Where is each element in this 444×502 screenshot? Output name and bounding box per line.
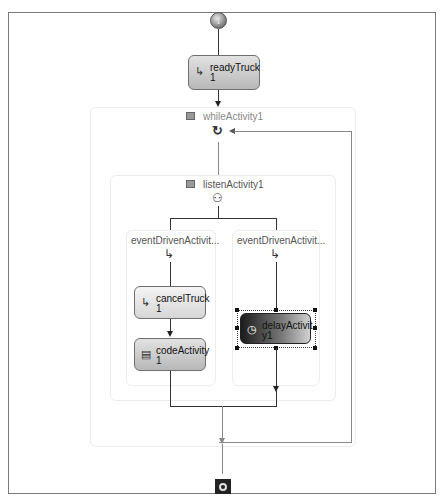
listen-icon: ⚇ bbox=[212, 192, 223, 204]
resize-handle[interactable] bbox=[235, 326, 239, 330]
branch-label: eventDrivenActivit... bbox=[237, 235, 325, 246]
branch-label: eventDrivenActivit... bbox=[131, 235, 219, 246]
workflow-end-icon[interactable] bbox=[215, 479, 231, 494]
loopback-connector bbox=[219, 442, 352, 443]
arrow-head bbox=[167, 331, 173, 337]
connector bbox=[222, 444, 223, 474]
while-activity-header: whileActivity1 bbox=[186, 111, 263, 122]
code-icon: ▤ bbox=[141, 349, 152, 360]
resize-handle[interactable] bbox=[235, 346, 239, 350]
connector bbox=[170, 406, 277, 407]
connector bbox=[170, 218, 277, 219]
collapse-toggle[interactable] bbox=[186, 112, 195, 120]
activity-label: delayActivity1 bbox=[262, 321, 313, 341]
resize-handle[interactable] bbox=[313, 346, 317, 350]
activity-codeactivity[interactable]: ▤ codeActivity1 bbox=[134, 338, 206, 371]
connector bbox=[218, 206, 219, 218]
resize-handle[interactable] bbox=[313, 308, 317, 312]
resize-handle[interactable] bbox=[274, 308, 278, 312]
event-sink-icon: ↳ bbox=[195, 66, 206, 77]
connector bbox=[170, 262, 171, 286]
collapse-toggle[interactable] bbox=[186, 180, 195, 188]
connector bbox=[276, 262, 277, 308]
while-activity-label: whileActivity1 bbox=[203, 111, 263, 122]
connector bbox=[222, 406, 223, 438]
connector bbox=[276, 390, 277, 406]
activity-readytruck[interactable]: ↳ readyTruck1 bbox=[188, 55, 260, 90]
end-ring bbox=[219, 483, 227, 491]
resize-handle[interactable] bbox=[235, 308, 239, 312]
activity-label: codeActivity1 bbox=[156, 346, 209, 366]
connector bbox=[276, 348, 277, 388]
event-driven-icon: ↳ bbox=[164, 248, 174, 260]
activity-canceltruck[interactable]: ↳ cancelTruck1 bbox=[134, 286, 206, 319]
delay-icon: ◷ bbox=[247, 324, 258, 335]
workflow-start-icon[interactable]: ↓ bbox=[210, 12, 227, 29]
loop-icon: ↻ bbox=[212, 125, 223, 137]
listen-activity-header: listenActivity1 bbox=[186, 179, 264, 190]
activity-delayactivity[interactable]: ◷ delayActivity1 bbox=[240, 313, 311, 344]
activity-label: readyTruck1 bbox=[210, 63, 260, 83]
connector bbox=[218, 142, 219, 175]
activity-label: cancelTruck1 bbox=[156, 294, 210, 314]
loopback-connector bbox=[234, 131, 352, 132]
event-sink-icon: ↳ bbox=[141, 297, 152, 308]
resize-handle[interactable] bbox=[313, 326, 317, 330]
connector bbox=[218, 29, 219, 55]
event-driven-icon: ↳ bbox=[270, 248, 280, 260]
listen-activity-label: listenActivity1 bbox=[203, 179, 264, 190]
connector bbox=[170, 371, 171, 406]
connector bbox=[170, 218, 171, 230]
connector bbox=[276, 218, 277, 230]
loopback-connector bbox=[351, 131, 352, 443]
